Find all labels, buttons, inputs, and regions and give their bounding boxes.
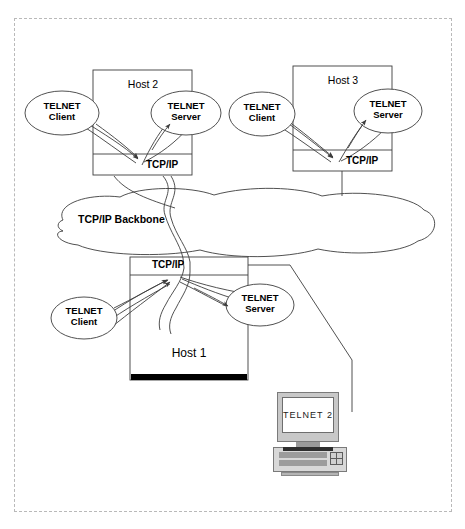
host-1-client-label: TELNET Client bbox=[54, 306, 114, 327]
host-3-server-label-line1: TELNET bbox=[358, 99, 418, 110]
diagram-canvas: Host 2 TCP/IP Host 3 TCP/IP Host 1 TCP/I… bbox=[0, 0, 465, 529]
host-2-server-label-line1: TELNET bbox=[156, 101, 216, 112]
host-2-server-label: TELNET Server bbox=[156, 101, 216, 122]
host-2-server-label-line2: Server bbox=[156, 112, 216, 123]
host-1-base-bar bbox=[131, 374, 247, 380]
host-1-server-label-line1: TELNET bbox=[230, 293, 290, 304]
host-1-server-label-line2: Server bbox=[230, 304, 290, 315]
host-2-client-label-line2: Client bbox=[32, 112, 92, 123]
host-1-server-label: TELNET Server bbox=[230, 293, 290, 314]
host-1-stack-label: TCP/IP bbox=[152, 259, 184, 270]
host-1-box bbox=[130, 257, 248, 380]
host-3-client-label: TELNET Client bbox=[232, 102, 292, 123]
host-3-server-label-line2: Server bbox=[358, 110, 418, 121]
keyboard-top-strip bbox=[283, 447, 333, 451]
host-2-title: Host 2 bbox=[113, 78, 173, 90]
host-1-title: Host 1 bbox=[158, 346, 220, 360]
keyboard-base-bar bbox=[281, 472, 339, 476]
keyboard-row-2 bbox=[279, 460, 327, 466]
monitor-screen: TELNET 2 bbox=[282, 397, 334, 433]
telnet-terminal: TELNET 2 bbox=[273, 392, 351, 484]
host-2-client-label: TELNET Client bbox=[32, 101, 92, 122]
host-3-client-label-line2: Client bbox=[232, 113, 292, 124]
keyboard-row-1 bbox=[279, 452, 327, 458]
diagram-vector-layer bbox=[0, 0, 465, 529]
host-3-server-label: TELNET Server bbox=[358, 99, 418, 120]
keyboard-numpad bbox=[330, 452, 343, 465]
backbone-label: TCP/IP Backbone bbox=[78, 213, 165, 225]
host-2-client-label-line1: TELNET bbox=[32, 101, 92, 112]
host-1-client-label-line2: Client bbox=[54, 317, 114, 328]
monitor-screen-label: TELNET 2 bbox=[283, 410, 333, 420]
host-3-stack-label: TCP/IP bbox=[346, 155, 378, 166]
host-3-client-label-line1: TELNET bbox=[232, 102, 292, 113]
host-3-title: Host 3 bbox=[313, 74, 373, 86]
host-2-stack-label: TCP/IP bbox=[146, 159, 178, 170]
host-1-client-label-line1: TELNET bbox=[54, 306, 114, 317]
